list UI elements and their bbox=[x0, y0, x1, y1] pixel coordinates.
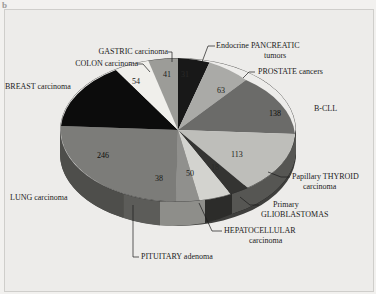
label-pancreatic-line2: tumors bbox=[264, 51, 286, 61]
value-hepatocellular: 50 bbox=[186, 170, 194, 178]
label-bcll: B-CLL bbox=[314, 104, 337, 114]
pie-chart bbox=[0, 0, 376, 294]
value-pituitary: 38 bbox=[155, 175, 163, 183]
value-bcll: 138 bbox=[269, 110, 281, 118]
pie-slices bbox=[60, 58, 296, 202]
label-pituitary: PITUITARY adenoma bbox=[141, 252, 213, 262]
label-gastric: GASTRIC carcinoma bbox=[58, 47, 168, 57]
label-pancreatic-line1: Endocrine PANCREATIC bbox=[216, 41, 299, 51]
value-gastric: 41 bbox=[163, 71, 171, 79]
label-hepatocellular-line2: carcinoma bbox=[249, 236, 282, 246]
label-breast: BREAST carcinoma bbox=[5, 82, 71, 92]
value-lung: 246 bbox=[97, 152, 109, 160]
label-colon: COLON carcinoma bbox=[28, 59, 138, 69]
label-glioblastoma-line1: Primary bbox=[273, 200, 299, 210]
value-colon: 54 bbox=[132, 78, 140, 86]
label-lung: LUNG carcinoma bbox=[10, 193, 68, 203]
value-glioblastoma: 18 bbox=[211, 164, 219, 172]
figure-panel: b bbox=[0, 0, 376, 294]
label-hepatocellular-line1: HEPATOCELLULAR bbox=[224, 226, 296, 236]
label-prostate: PROSTATE cancers bbox=[258, 67, 323, 77]
label-glioblastoma-line2: GLIOBLASTOMAS bbox=[261, 210, 328, 220]
label-thyroid-line1: Papillary THYROID bbox=[292, 172, 359, 182]
label-thyroid-line2: carcinoma bbox=[303, 182, 336, 192]
value-thyroid: 113 bbox=[231, 151, 243, 159]
value-pancreatic: 31 bbox=[181, 71, 189, 79]
value-prostate: 63 bbox=[217, 87, 225, 95]
